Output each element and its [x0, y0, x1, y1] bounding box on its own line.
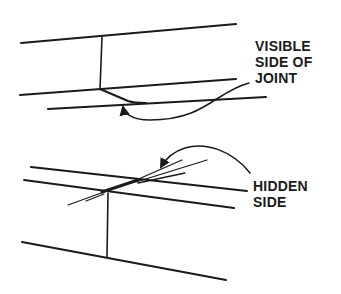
label-line: HIDDEN — [253, 178, 308, 194]
label-line: SIDE — [253, 194, 308, 210]
hidden-joint-splinter — [68, 192, 104, 205]
bottom-figure — [22, 146, 250, 280]
bottom-board-lower-edge — [22, 242, 226, 280]
top-figure — [20, 24, 266, 120]
top-board-lower-edge — [20, 79, 236, 95]
hidden-joint-dark-seam — [102, 180, 138, 192]
top-board-end-line — [100, 37, 102, 89]
hidden-side-label: HIDDEN SIDE — [253, 178, 308, 210]
hidden-side-arrow — [161, 146, 250, 173]
top-board-upper-edge — [21, 24, 236, 43]
label-line: VISIBLE — [255, 38, 312, 54]
visible-joint-bevel — [100, 89, 146, 103]
bottom-board-end-line — [107, 193, 108, 257]
label-line: SIDE OF — [255, 54, 312, 70]
top-second-board-edge — [48, 97, 266, 109]
hidden-joint-splinter — [136, 160, 207, 182]
label-line: JOINT — [255, 70, 312, 86]
visible-side-label: VISIBLE SIDE OF JOINT — [255, 38, 312, 86]
